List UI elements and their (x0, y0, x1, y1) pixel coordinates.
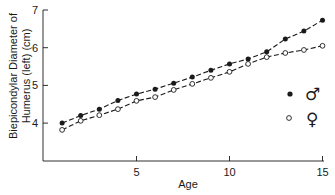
y-axis-title-line-2: Humerus (left) (cm) (20, 29, 32, 124)
axes (43, 10, 324, 161)
data-point (320, 18, 325, 23)
x-tick-label: 10 (223, 166, 235, 178)
data-point (171, 88, 176, 93)
legend-female-marker (287, 116, 292, 121)
male-symbol-icon: ♂ (305, 84, 320, 104)
data-point (134, 98, 139, 103)
y-tick-label: 6 (32, 42, 38, 54)
data-point (115, 98, 120, 103)
data-point (60, 127, 65, 132)
x-tick-label: 15 (316, 166, 328, 178)
data-point (60, 121, 65, 126)
y-axis-title-line-1: Biepicondylar Diameter of (7, 12, 19, 139)
data-point (283, 37, 288, 42)
data-point (301, 29, 306, 34)
data-point (246, 57, 251, 62)
y-tick-label: 4 (32, 117, 38, 129)
data-point (283, 51, 288, 56)
x-tick-label: 5 (133, 166, 139, 178)
data-point (116, 107, 121, 112)
legend: ♂ ♀ (287, 84, 321, 129)
data-point (190, 81, 195, 86)
legend-male-marker (287, 91, 292, 96)
data-point (264, 55, 269, 60)
data-point (78, 113, 83, 118)
data-point (208, 68, 213, 73)
data-point (153, 95, 158, 100)
data-point (227, 69, 232, 74)
data-point (246, 62, 251, 67)
data-point (190, 75, 195, 80)
data-point (227, 61, 232, 66)
data-point (134, 92, 139, 97)
line-chart: 4567 51015 Age Biepicondylar Diameter of… (0, 0, 335, 195)
data-point (97, 113, 102, 118)
data-point (171, 81, 176, 86)
x-axis-ticks: 51015 (133, 156, 328, 178)
y-axis-ticks: 4567 (32, 4, 48, 129)
data-point (320, 43, 325, 48)
y-tick-label: 5 (32, 79, 38, 91)
y-tick-label: 7 (32, 4, 38, 16)
series-male (60, 18, 325, 126)
x-axis-title: Age (178, 178, 198, 190)
data-point (97, 107, 102, 112)
data-point (209, 75, 214, 80)
female-symbol-icon: ♀ (306, 109, 318, 129)
data-point (78, 118, 83, 123)
data-point (302, 48, 307, 53)
series-female (60, 43, 325, 132)
y-axis-title: Biepicondylar Diameter of Humerus (left)… (7, 12, 32, 139)
data-point (153, 87, 158, 92)
data-point (264, 49, 269, 54)
data-series (60, 18, 325, 133)
